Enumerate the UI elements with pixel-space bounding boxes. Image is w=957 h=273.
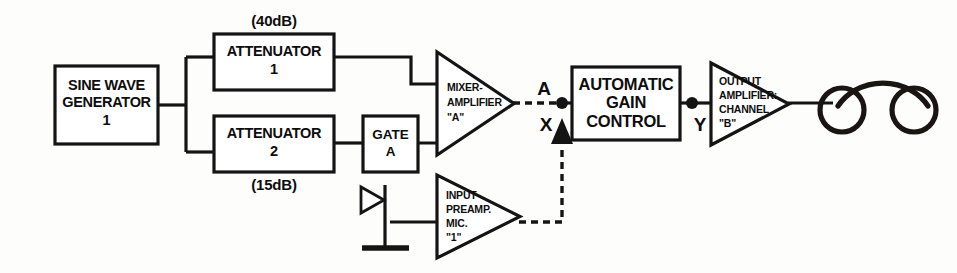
output-amplifier-line1: OUTPUT	[719, 75, 762, 87]
gate-a-line1: GATE	[372, 127, 409, 142]
block-diagram-canvas: SINE WAVE GENERATOR 1 (40dB) ATTENUATOR …	[0, 0, 957, 273]
sine-generator-line1: SINE WAVE	[68, 77, 145, 93]
input-preamp-line1: INPUT	[446, 189, 477, 201]
block-automatic-gain-control[interactable]: AUTOMATIC GAIN CONTROL	[572, 67, 680, 140]
attenuator-2-line1: ATTENUATOR	[227, 125, 322, 141]
attenuator-1-line2: 1	[270, 61, 278, 77]
input-preamp-line3: MIC.	[446, 217, 468, 229]
block-input-preamp[interactable]: INPUT PREAMP. MIC. "1"	[437, 175, 520, 258]
input-preamp-line4: "1"	[446, 231, 461, 243]
block-gate-a[interactable]: GATE A	[363, 116, 418, 172]
block-sine-wave-generator[interactable]: SINE WAVE GENERATOR 1	[55, 66, 158, 144]
wire-att1-to-mixer	[334, 57, 437, 84]
sine-generator-line3: 1	[103, 112, 111, 128]
headphones-icon	[820, 83, 936, 132]
agc-line1: AUTOMATIC	[579, 75, 674, 93]
block-output-amplifier[interactable]: OUTPUT AMPLIFIER: CHANNEL "B"	[711, 63, 789, 145]
input-preamp-line2: PREAMP.	[446, 203, 491, 215]
sine-generator-line2: GENERATOR	[62, 94, 151, 110]
attenuator-2-gain-label: (15dB)	[251, 176, 297, 193]
block-attenuator-2[interactable]: ATTENUATOR 2 (15dB)	[214, 116, 334, 193]
block-mixer-amplifier[interactable]: MIXER- AMPLIFIER "A"	[437, 52, 514, 155]
mixer-amplifier-line3: "A"	[447, 111, 464, 123]
node-label-x: X	[540, 114, 553, 135]
output-amplifier-line3: CHANNEL	[719, 103, 770, 115]
output-amplifier-line2: AMPLIFIER:	[719, 89, 777, 101]
attenuator-2-line2: 2	[270, 143, 278, 159]
attenuator-1-line1: ATTENUATOR	[227, 43, 322, 59]
node-label-y: Y	[694, 114, 707, 135]
headphones-earcup-left	[820, 88, 864, 132]
block-attenuator-1[interactable]: (40dB) ATTENUATOR 1	[214, 12, 334, 90]
wire-preamp-to-node-x	[519, 145, 562, 222]
mixer-amplifier-line1: MIXER-	[447, 81, 483, 93]
output-amplifier-line4: "B"	[719, 117, 736, 129]
node-label-a: A	[537, 78, 551, 99]
block-diagram-svg: SINE WAVE GENERATOR 1 (40dB) ATTENUATOR …	[0, 0, 957, 273]
microphone-icon	[361, 185, 409, 248]
node-x-arrowhead	[551, 118, 573, 144]
mixer-amplifier-line2: AMPLIFIER	[447, 96, 502, 108]
microphone-head	[361, 187, 384, 213]
agc-line3: CONTROL	[586, 112, 666, 130]
attenuator-1-gain-label: (40dB)	[251, 12, 297, 29]
agc-line2: GAIN	[606, 93, 646, 111]
gate-a-line2: A	[386, 144, 396, 159]
